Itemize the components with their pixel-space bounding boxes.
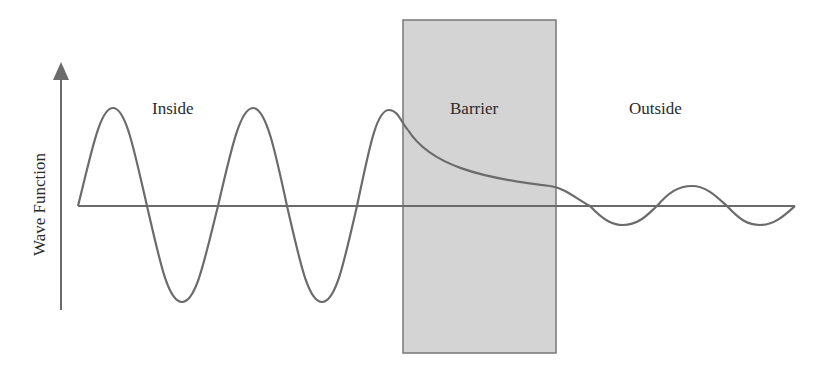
region-label-outside: Outside <box>629 99 682 118</box>
barrier-region <box>403 20 556 353</box>
region-label-inside: Inside <box>152 99 194 118</box>
wave-function-diagram: Inside Barrier Outside Wave Function <box>0 0 823 370</box>
y-axis-label: Wave Function <box>30 153 49 256</box>
y-axis-arrow-icon <box>53 62 69 80</box>
region-label-barrier: Barrier <box>450 99 498 118</box>
